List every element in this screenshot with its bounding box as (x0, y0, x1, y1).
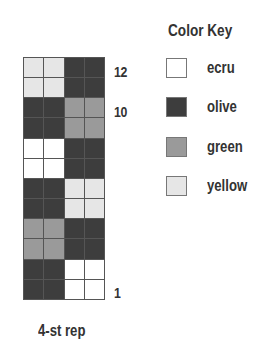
colorwork-chart-grid (23, 57, 105, 300)
chart-cell-olive (85, 78, 104, 97)
swatch-olive (166, 97, 187, 117)
chart-cell-yellow (65, 179, 84, 198)
chart-cell-ecru (44, 139, 63, 158)
chart-cell-olive (65, 219, 84, 238)
key-label-olive: olive (207, 97, 237, 117)
chart-cell-olive (44, 98, 63, 117)
chart-cell-olive (24, 98, 43, 117)
chart-cell-ecru (85, 260, 104, 279)
chart-cell-green (85, 118, 104, 137)
chart-cell-yellow (24, 78, 43, 97)
chart-cell-green (44, 239, 63, 258)
chart-cell-yellow (24, 58, 43, 77)
chart-cell-yellow (65, 199, 84, 218)
row-number-12: 12 (114, 64, 127, 79)
color-key-title: Color Key (168, 21, 232, 41)
chart-cell-olive (24, 280, 43, 299)
chart-cell-olive (24, 260, 43, 279)
chart-cell-green (44, 219, 63, 238)
chart-cell-ecru (65, 260, 84, 279)
chart-cell-olive (65, 159, 84, 178)
key-label-green: green (207, 137, 243, 157)
chart-cell-olive (65, 78, 84, 97)
chart-cell-olive (85, 159, 104, 178)
chart-cell-ecru (85, 280, 104, 299)
chart-cell-green (85, 98, 104, 117)
swatch-ecru (166, 58, 187, 78)
chart-cell-olive (44, 179, 63, 198)
chart-cell-olive (44, 118, 63, 137)
chart-cell-olive (85, 219, 104, 238)
chart-cell-olive (85, 139, 104, 158)
key-label-yellow: yellow (207, 176, 247, 196)
chart-cell-olive (24, 199, 43, 218)
chart-cell-olive (65, 58, 84, 77)
chart-cell-green (65, 98, 84, 117)
chart-cell-ecru (24, 159, 43, 178)
chart-cell-olive (85, 239, 104, 258)
chart-cell-olive (44, 280, 63, 299)
chart-cell-ecru (65, 280, 84, 299)
chart-cell-ecru (44, 159, 63, 178)
chart-cell-ecru (24, 139, 43, 158)
chart-cell-olive (65, 239, 84, 258)
chart-cell-yellow (85, 179, 104, 198)
chart-cell-yellow (85, 199, 104, 218)
row-number-1: 1 (114, 285, 120, 300)
chart-cell-olive (65, 139, 84, 158)
swatch-yellow (166, 176, 187, 196)
chart-cell-olive (24, 179, 43, 198)
chart-cell-green (24, 239, 43, 258)
chart-cell-yellow (44, 78, 63, 97)
chart-cell-yellow (44, 58, 63, 77)
chart-cell-olive (24, 118, 43, 137)
chart-cell-green (65, 118, 84, 137)
chart-cell-olive (44, 199, 63, 218)
chart-cell-olive (85, 58, 104, 77)
chart-cell-green (24, 219, 43, 238)
chart-cell-olive (44, 260, 63, 279)
row-number-10: 10 (114, 104, 127, 119)
swatch-green (166, 137, 187, 157)
repeat-label: 4-st rep (38, 322, 85, 340)
key-label-ecru: ecru (207, 58, 235, 78)
